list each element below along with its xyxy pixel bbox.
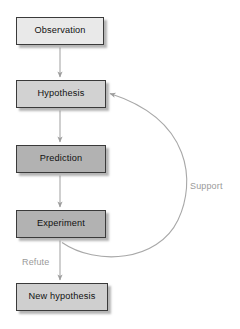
node-experiment[interactable]: Experiment (16, 210, 106, 238)
node-new-hypothesis-label: New hypothesis (29, 292, 96, 301)
edge-label-support: Support (190, 182, 223, 191)
edge-label-refute: Refute (22, 258, 49, 267)
node-prediction[interactable]: Prediction (16, 145, 106, 173)
node-observation-label: Observation (34, 26, 85, 35)
flowchart-canvas: Observation Hypothesis Prediction Experi… (0, 0, 240, 329)
node-prediction-label: Prediction (40, 154, 82, 163)
node-experiment-label: Experiment (37, 219, 85, 228)
node-new-hypothesis[interactable]: New hypothesis (16, 283, 108, 311)
node-observation[interactable]: Observation (16, 17, 104, 45)
node-hypothesis-label: Hypothesis (38, 89, 85, 98)
node-hypothesis[interactable]: Hypothesis (16, 80, 106, 108)
